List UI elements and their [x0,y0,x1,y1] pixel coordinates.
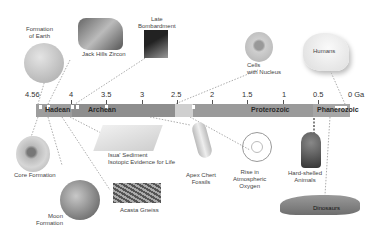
label-rise-in-oxygen: Rise in Atmospheric Oxygen [233,169,266,190]
geologic-timeline-diagram: Hadean Archean Proterozoic Phanerozoic 4… [0,0,383,241]
tick-mark [318,100,319,104]
eon-transition-bar [175,104,193,117]
tick-label: 3 [140,90,144,99]
label-formation-of-earth: Formation of Earth [26,26,53,40]
eon-label-archean: Archean [88,106,116,113]
gneiss-rock-icon [113,183,161,203]
tick-mark [71,100,72,104]
eon-label-phanerozoic: Phanerozoic [317,106,359,113]
trilobite-icon [301,132,321,168]
bombardment-image-icon [144,30,168,58]
earth-globe-icon [24,43,64,83]
core-cutaway-icon [16,136,50,172]
eon-label-hadean: Hadean [45,106,70,113]
tick-mark [283,100,284,104]
tick-label: 1 [282,90,286,99]
marker [71,105,74,109]
label-humans: Humans [313,48,335,55]
oxygen-nucleus-icon [251,141,263,153]
tick-label: 4 [69,90,73,99]
label-late-bombardment: Late Bombardment [138,16,176,30]
tick-label: 4.56 [25,90,40,99]
moon-impact-icon [60,180,100,220]
label-moon-formation: Moon Formation [36,213,63,227]
label-isua-sediment: Isua' Sediment Isotopic Evidence for Lif… [108,152,175,166]
tick-label: 0.5 [313,90,323,99]
label-apex-chert-fossils: Apex Chert Fossils [186,172,216,186]
tick-label: 1.5 [242,90,252,99]
tick-mark [212,100,213,104]
marker [192,105,195,109]
tick-label: 2 [210,90,214,99]
eon-label-proterozoic: Proterozoic [251,106,290,113]
marker [39,105,42,109]
label-cells-with-nucleus: Cells with Nucleus [247,62,281,76]
cell-nucleus-icon [245,32,273,62]
label-hard-shelled-animals: Hard-shelled Animals [288,170,322,184]
zircon-crystal-icon [78,18,123,50]
tick-label: 3.5 [101,90,111,99]
tick-label: 2.5 [171,90,181,99]
label-acasta-gneiss: Acasta Gneiss [120,207,159,214]
axis-unit-label: 0 Ga [348,90,364,99]
tick-mark [106,100,107,104]
sediment-slab-icon [93,125,162,151]
marker [76,105,79,109]
tick-mark [177,100,178,104]
tick-mark [142,100,143,104]
label-dinosaurs: Dinosaurs [313,205,340,212]
tick-mark [247,100,248,104]
label-core-formation: Core Formation [14,172,56,179]
label-jack-hills-zircon: Jack Hills Zircon [82,51,126,58]
